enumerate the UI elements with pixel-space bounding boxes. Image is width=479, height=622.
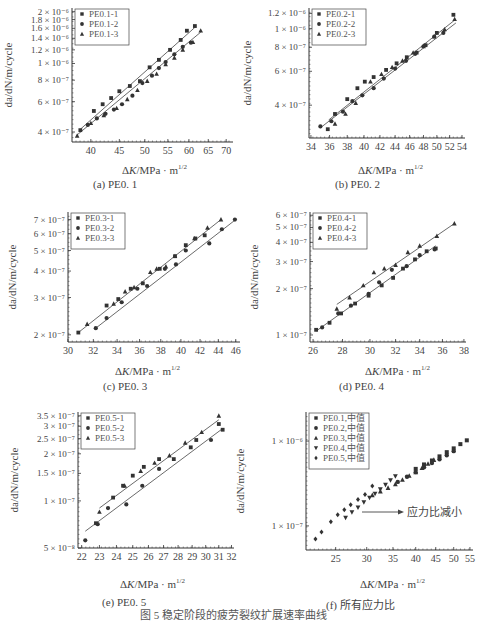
- marker-square: [413, 257, 417, 261]
- marker-square: [328, 321, 332, 325]
- marker-circle: [140, 81, 144, 85]
- x-tick-label: 55: [163, 145, 173, 156]
- marker-triangle-down: [393, 474, 398, 479]
- marker-square: [184, 243, 188, 247]
- marker-triangle: [183, 440, 188, 444]
- marker-circle: [94, 326, 98, 330]
- marker-triangle-down: [367, 496, 372, 501]
- legend-entry: PE0.5-3: [95, 433, 125, 443]
- legend-entry: PE0.5-1: [95, 413, 124, 423]
- marker-circle: [404, 59, 408, 63]
- panel-caption-f: (f) 所有应力比: [326, 596, 395, 612]
- marker-circle: [452, 449, 456, 453]
- marker-circle: [86, 426, 90, 430]
- x-tick-label: 44: [213, 345, 223, 356]
- marker-circle: [441, 31, 445, 35]
- marker-square: [157, 58, 161, 62]
- x-tick-label: 23: [94, 551, 104, 562]
- marker-circle: [83, 538, 87, 542]
- marker-square: [109, 96, 113, 100]
- marker-square: [465, 438, 469, 442]
- y-tick-label: 1.2 × 10⁻⁶: [31, 45, 69, 55]
- x-tick-label: 45: [431, 553, 441, 564]
- y-tick-label: 6 × 10⁻⁷: [38, 97, 69, 107]
- marker-circle: [317, 22, 321, 26]
- chart-panel-f: 253035404550551 × 10⁻⁷1 × 10⁻⁶da/dN/m/cy…: [234, 412, 475, 564]
- x-tick-label: 52: [445, 141, 455, 152]
- marker-square: [326, 127, 330, 131]
- y-tick-label: 4 × 10⁻⁷: [276, 237, 307, 247]
- legend-entry: PE0.3-1: [85, 213, 114, 223]
- marker-circle: [349, 304, 353, 308]
- marker-square: [345, 97, 349, 101]
- marker-square: [92, 109, 96, 113]
- marker-circle: [124, 502, 128, 506]
- x-tick-label: 28: [173, 551, 183, 562]
- exponent: 1/2: [171, 364, 180, 372]
- x-tick-label: 65: [203, 145, 213, 156]
- marker-circle: [96, 522, 100, 526]
- x-tick-label: 22: [77, 551, 87, 562]
- marker-square: [189, 445, 193, 449]
- y-axis-label: da/dN/m/cycle: [6, 245, 18, 310]
- x-tick-label: 26: [143, 551, 153, 562]
- marker-square: [221, 428, 225, 432]
- marker-square: [435, 31, 439, 35]
- x-tick-label: 50: [449, 553, 459, 564]
- marker-triangle-down: [350, 510, 355, 515]
- marker-circle: [95, 116, 99, 120]
- exponent: 1/2: [421, 364, 430, 372]
- y-axis-label: da/dN/m/cycle: [234, 449, 246, 514]
- marker-circle: [140, 484, 144, 488]
- y-tick-label: 2 × 10⁻⁷: [34, 330, 65, 340]
- legend-entry: PE0.5-2: [95, 423, 124, 433]
- marker-square: [363, 80, 367, 84]
- marker-triangle: [372, 270, 377, 274]
- y-tick-label: 3 × 10⁻⁷: [276, 257, 307, 267]
- legend-entry: PE0.2,中值: [323, 422, 365, 433]
- x-tick-label: 40: [359, 141, 369, 152]
- marker-square: [76, 331, 80, 335]
- legend-entry: PE0.2-1: [326, 9, 355, 19]
- marker-square: [380, 283, 384, 287]
- marker-triangle-down: [343, 516, 348, 521]
- legend-entry: PE0.3-3: [85, 233, 115, 243]
- marker-square: [116, 297, 120, 301]
- x-tick-label: 48: [419, 141, 429, 152]
- x-tick-label: 38: [156, 345, 166, 356]
- marker-square: [391, 276, 395, 280]
- y-tick-label: 3 × 10⁻⁷: [44, 421, 75, 431]
- legend-entry: PE0.2-3: [326, 29, 356, 39]
- legend-entry: PE0.4-2: [327, 223, 356, 233]
- marker-circle: [320, 325, 324, 329]
- marker-triangle: [417, 243, 422, 247]
- arrowhead-icon: [398, 510, 404, 515]
- x-tick-label: 40: [86, 145, 96, 156]
- y-tick-label: 2 × 10⁻⁶: [38, 7, 69, 17]
- marker-square: [111, 496, 115, 500]
- x-tick-label: 26: [308, 345, 318, 356]
- legend-entry: PE0.3,中值: [323, 432, 365, 443]
- x-tick-label: 32: [391, 345, 401, 356]
- legend: PE0.2-1PE0.2-2PE0.2-3: [312, 9, 366, 45]
- marker-square: [203, 233, 207, 237]
- exponent: 1/2: [176, 577, 185, 585]
- x-tick-label: 28: [338, 345, 348, 356]
- marker-diamond: [342, 507, 346, 512]
- legend-entry: PE0.2-2: [326, 19, 355, 29]
- panel-caption-c: (c) PE0. 3: [103, 380, 147, 392]
- y-tick-label: 4 × 10⁻⁷: [38, 127, 69, 137]
- marker-triangle: [217, 413, 222, 417]
- y-tick-label: 8 × 10⁻⁷: [38, 75, 69, 85]
- x-tick-label: 35: [388, 553, 398, 564]
- marker-triangle: [138, 469, 143, 473]
- x-tick-label: 40: [411, 553, 421, 564]
- y-tick-label: 1 × 10⁻⁶: [38, 58, 69, 68]
- legend-entry: PE0.1,中值: [323, 412, 365, 423]
- x-tick-label: 50: [432, 141, 442, 152]
- marker-triangle: [85, 321, 90, 325]
- marker-circle: [445, 453, 449, 457]
- marker-circle: [157, 66, 161, 70]
- marker-circle: [106, 506, 110, 510]
